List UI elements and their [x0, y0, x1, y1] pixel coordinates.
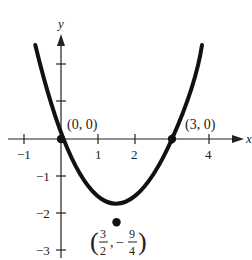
- svg-text:2: 2: [100, 244, 106, 258]
- svg-text:9: 9: [129, 227, 135, 241]
- parabola-curve: [35, 45, 202, 204]
- svg-text:4: 4: [129, 244, 135, 258]
- x-axis-arrow-icon: [232, 135, 244, 143]
- y-tick-label-neg2: −2: [36, 206, 50, 221]
- parabola-chart: x y −1 1 2 4 −1 −2 −3 (0, 0) (3, 0) ( 3 …: [0, 0, 252, 260]
- x-tick-label-4: 4: [205, 147, 212, 162]
- y-tick-label-neg1: −1: [36, 169, 50, 184]
- svg-text:,: ,: [110, 235, 114, 250]
- point-vertex: [112, 218, 120, 226]
- vertex-label: ( 3 2 , − 9 4 ): [90, 227, 147, 258]
- y-axis-arrow-icon: [57, 34, 65, 46]
- svg-text:−: −: [116, 235, 124, 250]
- x-tick-label-1: 1: [95, 147, 102, 162]
- y-tick-label-neg3: −3: [36, 243, 50, 258]
- x-axis-label: x: [245, 131, 252, 146]
- svg-text:): ): [138, 227, 147, 256]
- point-origin: [57, 135, 65, 143]
- x-tick-label-neg1: −1: [17, 147, 31, 162]
- y-axis-label: y: [56, 16, 64, 31]
- svg-text:(: (: [90, 227, 99, 256]
- origin-label: (0, 0): [67, 117, 98, 133]
- x-tick-label-2: 2: [131, 147, 138, 162]
- x-intercept-label: (3, 0): [185, 117, 216, 133]
- point-x-intercept: [168, 135, 176, 143]
- svg-text:3: 3: [100, 227, 106, 241]
